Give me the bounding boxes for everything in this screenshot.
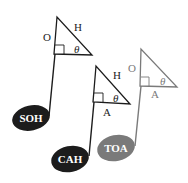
soh-label-theta: θ (74, 43, 80, 55)
soh-label-hypotenuse: H (74, 21, 82, 33)
soh-note-label: SOH (19, 112, 43, 124)
toa-stem (135, 86, 141, 146)
soh-stem (49, 54, 55, 116)
toa-right-angle-marker (141, 77, 149, 86)
toa-triangle (140, 49, 177, 87)
cah-label-adjacent: A (103, 106, 111, 118)
cah-right-angle-marker (94, 93, 103, 102)
soh-cah-toa-diagram: O H θ SOH H θ A CAH O θ A TOA (0, 0, 188, 183)
cah-stem (89, 102, 94, 156)
toa-note-label: TOA (104, 142, 128, 154)
toa-label-theta: θ (160, 75, 166, 87)
cah-triangle (93, 66, 130, 104)
note-soh: O H θ SOH (10, 17, 92, 134)
cah-label-hypotenuse: H (113, 69, 121, 81)
cah-note-label: CAH (58, 153, 83, 165)
cah-label-theta: θ (113, 92, 119, 104)
toa-label-adjacent: A (151, 88, 159, 100)
toa-label-opposite: O (128, 62, 136, 74)
soh-label-opposite: O (43, 31, 51, 43)
soh-right-angle-marker (55, 45, 64, 54)
soh-triangle (54, 17, 92, 55)
